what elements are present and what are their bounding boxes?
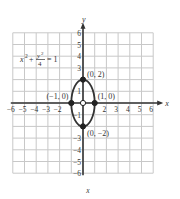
y-tick-label: −3 <box>73 134 81 143</box>
y-tick-label: −5 <box>73 158 81 167</box>
point-label: (0, −2) <box>87 129 109 138</box>
x-tick-label: −4 <box>30 105 38 114</box>
y-tick-label: 6 <box>77 29 81 38</box>
point-label: (1, 0) <box>98 92 116 101</box>
point-label: (−1, 0) <box>46 92 68 101</box>
x-tick-label: 6 <box>149 105 153 114</box>
equation-part: 4 <box>38 60 42 68</box>
x-tick-label: −2 <box>54 105 62 114</box>
caption-label: x <box>85 186 90 195</box>
y-tick-label: 5 <box>77 41 81 50</box>
x-tick-label: −3 <box>42 105 50 114</box>
y-tick-label: −4 <box>73 146 81 155</box>
point-marker <box>80 77 85 82</box>
y-tick-label: −6 <box>73 169 81 178</box>
origin-open-circle <box>80 100 85 105</box>
point-marker <box>80 124 85 129</box>
point-marker <box>92 100 97 105</box>
ellipse-chart: xy−6−5−4−3−22345665431−1−3−4−5−6(0, 2)(1… <box>0 0 180 199</box>
equation-part: = 1 <box>47 55 58 64</box>
point-label: (0, 2) <box>87 70 105 79</box>
x-tick-label: 4 <box>126 105 130 114</box>
y-tick-label: 3 <box>77 64 81 73</box>
equation-part: + <box>29 55 34 64</box>
x-axis-label: x <box>164 99 169 108</box>
equation-part: 2 <box>41 51 44 56</box>
equation-part: 2 <box>25 53 28 59</box>
x-tick-label: −6 <box>7 105 15 114</box>
x-axis-arrow-icon <box>157 101 163 106</box>
y-tick-label: 4 <box>77 52 81 61</box>
x-tick-label: −5 <box>19 105 27 114</box>
equation-part: x <box>19 55 24 64</box>
y-tick-label: 1 <box>77 87 81 96</box>
point-marker <box>69 100 74 105</box>
y-axis-label: y <box>81 15 86 24</box>
x-tick-label: 5 <box>138 105 142 114</box>
x-tick-label: 2 <box>103 105 107 114</box>
x-tick-label: 3 <box>114 105 118 114</box>
